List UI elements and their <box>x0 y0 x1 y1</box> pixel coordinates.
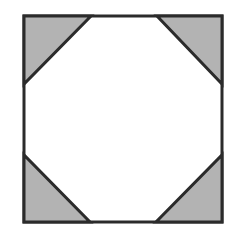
octagon-in-square-diagram <box>0 0 241 231</box>
